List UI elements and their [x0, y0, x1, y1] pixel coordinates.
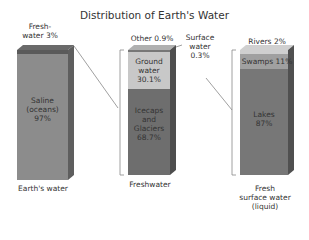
label-freshwater-3: Fresh- water 3%	[10, 22, 70, 40]
label-icecaps: Icecaps and Glaciers 68.7%	[128, 106, 170, 142]
label-rivers: Rivers 2%	[240, 37, 294, 46]
label-fresh-surface-water: Fresh surface water (liquid)	[230, 184, 300, 211]
label-lakes: Lakes 87%	[240, 110, 288, 128]
label-surface-water: Surface water 0.3%	[180, 33, 220, 60]
label-ground-water: Ground water 30.1%	[128, 57, 170, 84]
label-freshwater: Freshwater	[120, 180, 180, 189]
label-saline: Saline (oceans) 97%	[17, 96, 68, 123]
label-swamps: Swamps 11%	[239, 57, 295, 66]
label-earths-water: Earth's water	[10, 184, 76, 193]
label-other: Other 0.9%	[124, 34, 180, 43]
